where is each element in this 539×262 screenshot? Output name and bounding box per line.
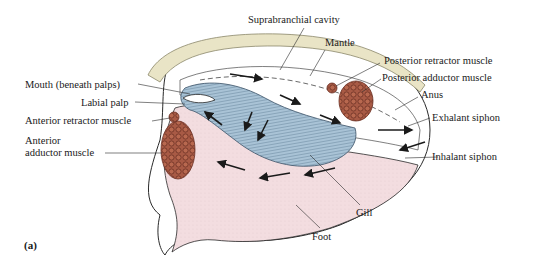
label-anterior-adductor-line1: Anterior <box>25 135 61 146</box>
label-foot: Foot <box>312 231 331 242</box>
label-anterior-retractor-muscle: Anterior retractor muscle <box>25 115 131 126</box>
label-inhalant-siphon: Inhalant siphon <box>432 151 497 162</box>
bivalve-anatomy-diagram: Suprabranchial cavity Mantle Posterior r… <box>0 0 539 262</box>
label-anus: Anus <box>421 89 443 100</box>
label-gill: Gill <box>356 207 372 218</box>
label-exhalant-siphon: Exhalant siphon <box>432 112 500 123</box>
anterior-adductor-muscle <box>161 121 195 179</box>
diagram-drawing <box>0 0 539 262</box>
label-posterior-adductor-muscle: Posterior adductor muscle <box>382 72 492 83</box>
label-suprabranchial-cavity: Suprabranchial cavity <box>248 14 340 25</box>
label-mouth: Mouth (beneath palps) <box>25 79 120 90</box>
label-anterior-adductor-line2: adductor muscle <box>25 147 94 158</box>
label-posterior-retractor-muscle: Posterior retractor muscle <box>384 55 492 66</box>
anterior-retractor-muscle <box>169 112 179 122</box>
posterior-adductor-muscle <box>339 81 373 121</box>
label-labial-palp: Labial palp <box>81 97 129 108</box>
label-mantle: Mantle <box>325 37 355 48</box>
posterior-retractor-muscle <box>327 83 337 93</box>
panel-label: (a) <box>24 239 37 251</box>
